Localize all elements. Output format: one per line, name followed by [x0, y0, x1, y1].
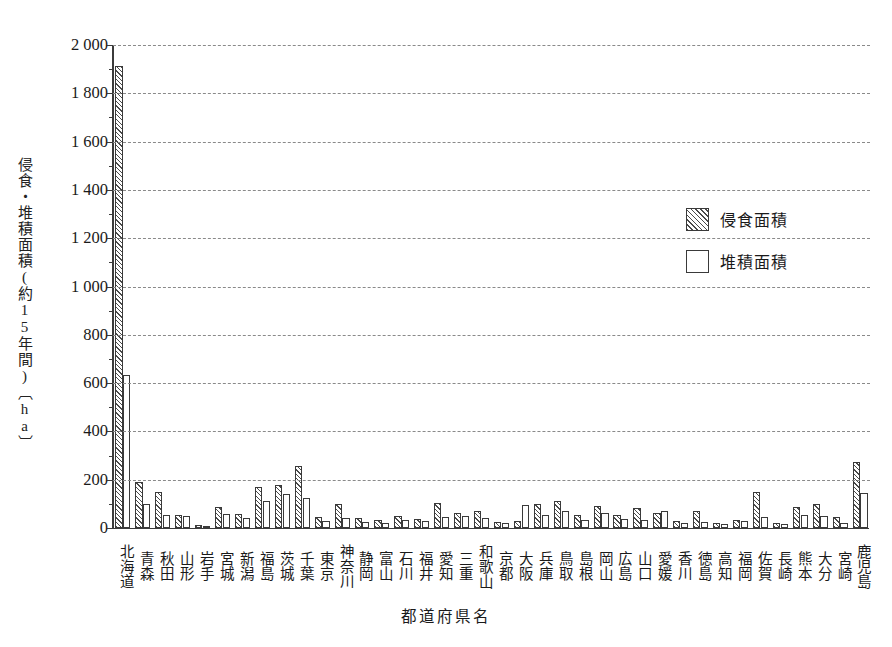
bar-deposition-area: [601, 513, 608, 528]
y-tick-mark: [107, 431, 113, 432]
x-tick-label: 兵庫: [531, 531, 551, 601]
bar-deposition-area: [143, 504, 150, 528]
bar-erosion-area: [673, 521, 680, 528]
bar-erosion-area: [155, 492, 162, 528]
x-tick-label: 石川: [392, 531, 412, 601]
bar-erosion-area: [494, 522, 501, 528]
bar-deposition-area: [801, 515, 808, 528]
y-tick-label: 1 400: [34, 182, 108, 199]
x-tick-label: 徳島: [691, 531, 711, 601]
erosion-deposition-bar-chart: 侵食・堆積面積(約15年間)〔ha〕 02004006008001 0001 2…: [0, 0, 892, 647]
bar-deposition-area: [183, 516, 190, 528]
bar-deposition-area: [721, 524, 728, 528]
x-tick-label: 鳥取: [551, 531, 571, 601]
bar-erosion-area: [255, 487, 262, 528]
y-tick-mark: [107, 142, 113, 143]
bar-deposition-area: [263, 501, 270, 528]
legend-label: 侵食面積: [720, 207, 788, 231]
x-tick-label: 三重: [452, 531, 472, 601]
bar-deposition-area: [860, 493, 867, 528]
y-minor-tick-mark: [109, 407, 113, 408]
bar-erosion-area: [753, 492, 760, 528]
bar-erosion-area: [374, 520, 381, 528]
x-tick-label: 秋田: [153, 531, 173, 601]
y-tick-label: 200: [34, 471, 108, 488]
x-tick-label: 京都: [492, 531, 512, 601]
chart-legend: 侵食面積堆積面積: [686, 207, 858, 283]
gridline: [113, 93, 870, 94]
x-tick-label: 和歌山: [472, 531, 492, 601]
y-tick-mark: [107, 238, 113, 239]
bar-erosion-area: [713, 523, 720, 528]
gridline: [113, 335, 870, 336]
bar-deposition-area: [741, 521, 748, 528]
x-tick-label: 山形: [173, 531, 193, 601]
x-tick-label: 新潟: [233, 531, 253, 601]
y-minor-tick-mark: [109, 262, 113, 263]
bar-deposition-area: [362, 522, 369, 528]
bar-deposition-area: [402, 520, 409, 528]
y-tick-label: 600: [34, 375, 108, 392]
y-minor-tick-mark: [109, 311, 113, 312]
y-tick-label: 1 800: [34, 85, 108, 102]
y-tick-mark: [107, 528, 113, 529]
legend-item: 堆積面積: [686, 249, 788, 273]
bar-deposition-area: [462, 516, 469, 528]
bar-erosion-area: [175, 515, 182, 528]
x-tick-label: 大分: [810, 531, 830, 601]
bar-erosion-area: [574, 515, 581, 528]
x-tick-label: 鹿児島: [850, 531, 870, 601]
gridline: [113, 287, 870, 288]
gridline: [113, 190, 870, 191]
x-tick-label: 島根: [571, 531, 591, 601]
y-tick-label: 400: [34, 423, 108, 440]
x-tick-label: 熊本: [790, 531, 810, 601]
bar-erosion-area: [315, 517, 322, 528]
legend-item: 侵食面積: [686, 207, 788, 231]
x-tick-label: 福井: [412, 531, 432, 601]
bar-deposition-area: [542, 515, 549, 528]
y-tick-label: 1 000: [34, 278, 108, 295]
x-tick-label: 香川: [671, 531, 691, 601]
bar-erosion-area: [355, 518, 362, 528]
x-tick-label: 静岡: [352, 531, 372, 601]
bar-erosion-area: [853, 462, 860, 528]
plot-area: [113, 45, 870, 528]
y-tick-label: 1 200: [34, 230, 108, 247]
bar-erosion-area: [474, 511, 481, 528]
x-tick-label: 愛媛: [651, 531, 671, 601]
gridline: [113, 431, 870, 432]
bar-deposition-area: [641, 520, 648, 528]
x-tick-label: 広島: [611, 531, 631, 601]
bar-erosion-area: [833, 517, 840, 528]
bar-deposition-area: [781, 524, 788, 528]
bar-erosion-area: [793, 507, 800, 528]
x-tick-label: 佐賀: [750, 531, 770, 601]
x-tick-label: 山口: [631, 531, 651, 601]
bar-deposition-area: [522, 505, 529, 528]
bar-deposition-area: [303, 498, 310, 528]
y-tick-label: 800: [34, 327, 108, 344]
bar-erosion-area: [335, 504, 342, 528]
y-tick-mark: [107, 190, 113, 191]
bar-erosion-area: [454, 513, 461, 528]
bar-deposition-area: [203, 526, 210, 528]
y-tick-mark: [107, 93, 113, 94]
legend-swatch-hatched-icon: [686, 208, 709, 231]
y-tick-mark: [107, 45, 113, 46]
y-minor-tick-mark: [109, 166, 113, 167]
gridline: [113, 142, 870, 143]
y-minor-tick-mark: [109, 117, 113, 118]
bar-deposition-area: [163, 515, 170, 528]
y-axis-tick-labels: 02004006008001 0001 2001 4001 6001 8002 …: [30, 0, 108, 647]
x-tick-label: 岩手: [193, 531, 213, 601]
gridline: [113, 383, 870, 384]
bar-erosion-area: [135, 482, 142, 528]
bar-erosion-area: [275, 485, 282, 528]
bar-erosion-area: [215, 507, 222, 528]
bar-deposition-area: [322, 521, 329, 528]
x-tick-label: 神奈川: [332, 531, 352, 601]
bar-erosion-area: [594, 506, 601, 528]
bar-erosion-area: [613, 515, 620, 528]
bar-erosion-area: [554, 501, 561, 528]
